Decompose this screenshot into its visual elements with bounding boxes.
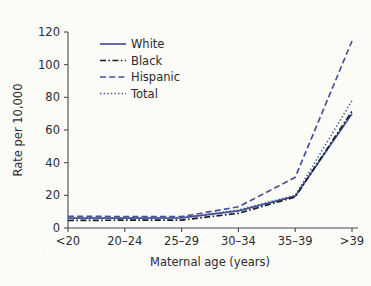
series-line-hispanic <box>68 41 352 217</box>
chart-legend: WhiteBlackHispanicTotal <box>100 37 180 101</box>
legend-label-white[interactable]: White <box>131 37 164 51</box>
x-tick-label: 25–29 <box>164 234 199 248</box>
series-line-white <box>68 114 352 219</box>
x-tick-label: >39 <box>340 234 364 248</box>
y-tick-label: 40 <box>45 156 60 170</box>
x-axis-ticks: <2020–2425–2930–3435–39>39 <box>56 228 364 248</box>
legend-label-hispanic[interactable]: Hispanic <box>131 70 180 84</box>
x-tick-label: <20 <box>56 234 80 248</box>
x-axis-label: Maternal age (years) <box>150 255 270 269</box>
series-line-black <box>68 111 352 220</box>
x-tick-label: 20–24 <box>107 234 142 248</box>
y-axis-ticks: 020406080100120 <box>38 25 68 235</box>
series-line-total <box>68 101 352 219</box>
y-tick-label: 60 <box>45 123 60 137</box>
y-tick-label: 80 <box>45 90 60 104</box>
y-axis-label: Rate per 10,000 <box>11 83 25 176</box>
y-tick-label: 120 <box>38 25 60 39</box>
x-tick-label: 30–34 <box>221 234 256 248</box>
y-tick-label: 0 <box>53 221 60 235</box>
y-tick-label: 20 <box>45 188 60 202</box>
legend-label-black[interactable]: Black <box>131 54 162 68</box>
data-series-group <box>68 41 352 221</box>
chart-figure: 020406080100120 <2020–2425–2930–3435–39>… <box>0 0 371 286</box>
x-tick-label: 35–39 <box>278 234 313 248</box>
y-tick-label: 100 <box>38 58 60 72</box>
legend-label-total[interactable]: Total <box>130 87 158 101</box>
line-chart-svg: 020406080100120 <2020–2425–2930–3435–39>… <box>0 0 371 286</box>
